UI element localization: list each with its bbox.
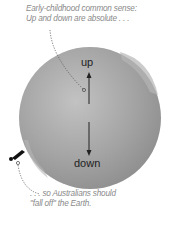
leader-dot [16,161,19,164]
caption-bottom-line2: "fall off" the Earth. [30,199,91,209]
label-up: up [81,56,93,68]
label-down: down [74,157,100,169]
falling-person-icon [9,150,25,161]
caption-bottom-line1: . . . so Australians should [30,189,116,199]
caption-top-line2: Up and down are absolute . . . [26,14,129,24]
caption-top-line1: Early-childhood common sense: [26,4,137,14]
